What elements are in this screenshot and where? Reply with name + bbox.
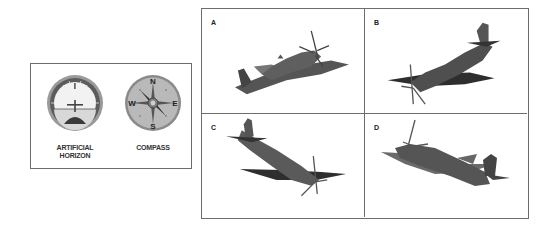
airplane-icon xyxy=(202,114,364,217)
artificial-horizon-icon xyxy=(46,74,104,132)
option-d[interactable]: D xyxy=(365,114,527,217)
airplane-icon xyxy=(365,9,527,113)
compass-e: E xyxy=(172,99,178,108)
option-a[interactable]: A xyxy=(202,9,365,114)
airplane-icon xyxy=(365,114,527,217)
compass-label: COMPASS xyxy=(115,144,191,152)
compass-s: S xyxy=(150,122,156,131)
airplane-icon xyxy=(202,9,364,113)
instrument-panel: N S W E ARTIFICIAL HORIZON COMPASS xyxy=(30,63,192,169)
artificial-horizon-label: ARTIFICIAL HORIZON xyxy=(37,144,113,160)
compass-n: N xyxy=(150,77,156,86)
compass-icon: N S W E xyxy=(124,74,182,132)
option-c[interactable]: C xyxy=(202,114,365,217)
answer-options-grid: A B C xyxy=(201,8,529,219)
option-b[interactable]: B xyxy=(365,9,527,114)
compass-w: W xyxy=(128,99,136,108)
